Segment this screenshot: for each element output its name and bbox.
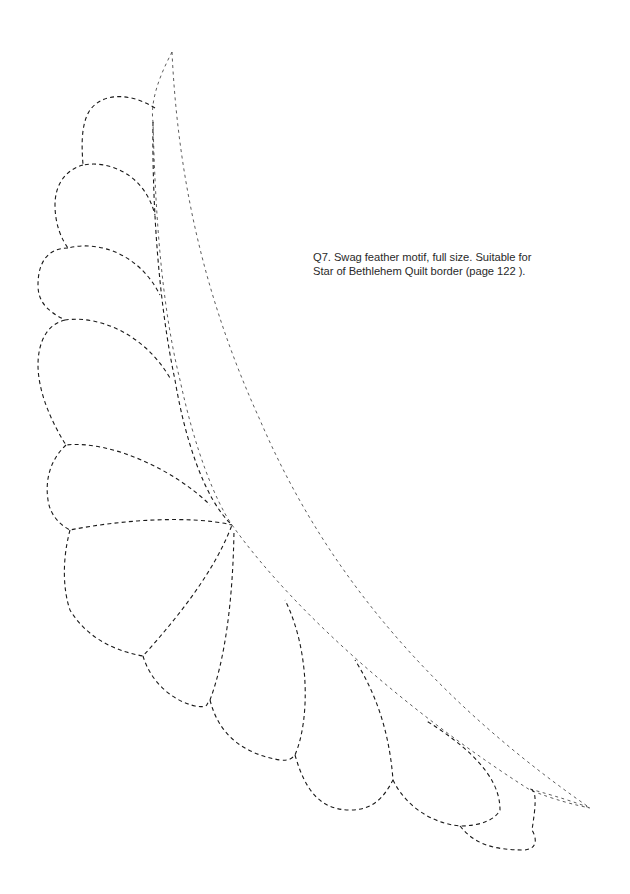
caption: Q7. Swag feather motif, full size. Suita…	[313, 250, 603, 278]
feather-2	[55, 165, 160, 295]
swag-feather-motif	[0, 0, 630, 894]
feather-9	[295, 660, 393, 810]
spine-rib-line	[153, 122, 232, 525]
feather-5	[47, 445, 232, 530]
pattern-page: Q7. Swag feather motif, full size. Suita…	[0, 0, 630, 894]
caption-line-1: Q7. Swag feather motif, full size. Suita…	[313, 250, 603, 264]
feather-8	[210, 600, 305, 760]
inner-spine-lower-line	[232, 525, 590, 808]
tip-closure-line	[530, 789, 590, 808]
feather-6	[64, 525, 232, 656]
outer-spine-line	[172, 52, 590, 808]
inner-spine-line	[152, 52, 232, 525]
feather-1	[82, 97, 155, 215]
feather-4	[38, 320, 210, 505]
caption-line-2: Star of Bethlehem Quilt border (page 122…	[313, 264, 603, 278]
feather-3	[38, 248, 170, 378]
feather-11	[460, 789, 535, 850]
feather-10	[393, 720, 500, 826]
feather-7	[143, 530, 234, 707]
